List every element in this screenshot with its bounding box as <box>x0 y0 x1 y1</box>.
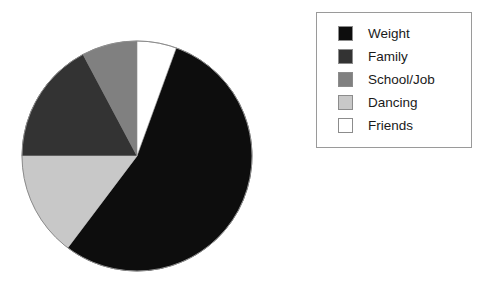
legend-item-weight[interactable]: Weight <box>317 22 471 45</box>
legend-label-school-job: School/Job <box>368 73 435 87</box>
legend-swatch-weight <box>338 26 353 41</box>
legend-item-school-job[interactable]: School/Job <box>317 68 471 91</box>
legend-swatch-dancing <box>338 95 353 110</box>
legend-swatch-school-job <box>338 72 353 87</box>
legend-item-dancing[interactable]: Dancing <box>317 91 471 114</box>
legend-item-friends[interactable]: Friends <box>317 114 471 137</box>
legend-label-dancing: Dancing <box>368 96 418 110</box>
legend-swatch-family <box>338 49 353 64</box>
legend-item-family[interactable]: Family <box>317 45 471 68</box>
pie-slice-group <box>22 41 252 271</box>
pie-svg <box>21 40 253 272</box>
chart-legend: Weight Family School/Job Dancing Friends <box>316 12 472 148</box>
legend-label-friends: Friends <box>368 119 413 133</box>
legend-swatch-friends <box>338 118 353 133</box>
pie-plot-area <box>21 40 253 272</box>
pie-chart-figure: Weight Family School/Job Dancing Friends <box>0 0 497 295</box>
legend-label-weight: Weight <box>368 27 410 41</box>
legend-label-family: Family <box>368 50 408 64</box>
